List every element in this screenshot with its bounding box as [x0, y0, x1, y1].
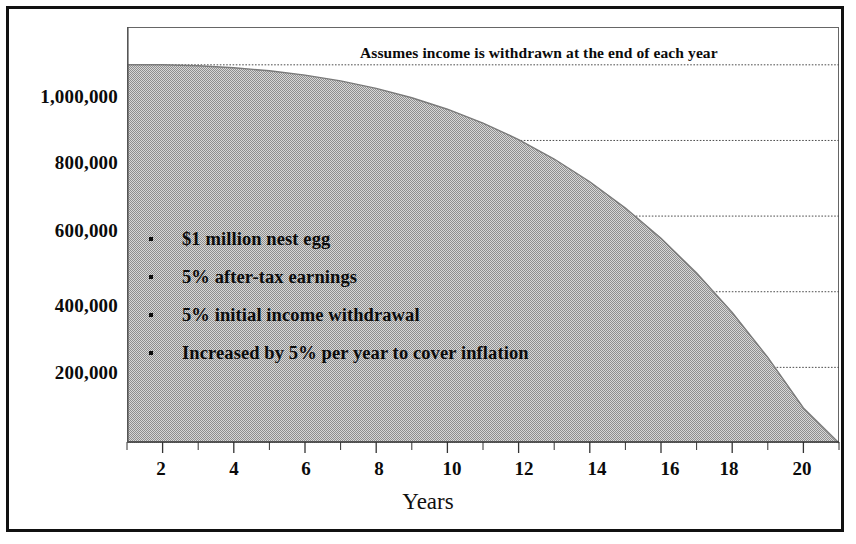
x-tick-label-14: 14	[572, 458, 622, 480]
x-tick-label-12: 12	[499, 458, 549, 480]
bullet-dot-icon	[149, 275, 153, 279]
x-tick-label-4: 4	[209, 458, 259, 480]
x-tick-label-18: 18	[704, 458, 754, 480]
x-tick-label-6: 6	[281, 458, 331, 480]
list-item: $1 million nest egg	[149, 228, 579, 254]
x-tick-label-10: 10	[427, 458, 477, 480]
figure-root: Assumes income is withdrawn at the end o…	[0, 0, 856, 544]
bullet-dot-icon	[149, 351, 153, 355]
assumptions-bullet-list: $1 million nest egg 5% after-tax earning…	[149, 228, 579, 380]
x-tick-label-2: 2	[136, 458, 186, 480]
bullet-text: Increased by 5% per year to cover inflat…	[182, 342, 579, 366]
list-item: 5% initial income withdrawal	[149, 304, 579, 330]
x-tick-label-16: 16	[645, 458, 695, 480]
bullet-dot-icon	[149, 313, 153, 317]
x-axis-title: Years	[0, 489, 856, 515]
x-tick-label-8: 8	[354, 458, 404, 480]
bullet-dot-icon	[149, 237, 153, 241]
bullet-text: 5% initial income withdrawal	[182, 304, 579, 328]
list-item: Increased by 5% per year to cover inflat…	[149, 342, 579, 368]
bullet-text: $1 million nest egg	[182, 228, 579, 252]
x-tick-label-20: 20	[777, 458, 827, 480]
bullet-text: 5% after-tax earnings	[182, 266, 579, 290]
list-item: 5% after-tax earnings	[149, 266, 579, 292]
